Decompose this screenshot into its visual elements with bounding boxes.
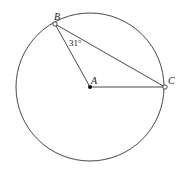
label-a: A bbox=[90, 75, 98, 86]
circle-diagram: A B C 31° bbox=[0, 0, 181, 171]
angle-label: 31° bbox=[69, 38, 82, 48]
point-c-dot bbox=[163, 85, 167, 89]
label-b: B bbox=[54, 11, 60, 22]
segment-bc bbox=[55, 24, 165, 87]
segment-ab bbox=[55, 24, 90, 87]
point-b-dot bbox=[53, 22, 57, 26]
label-c: C bbox=[168, 75, 175, 86]
